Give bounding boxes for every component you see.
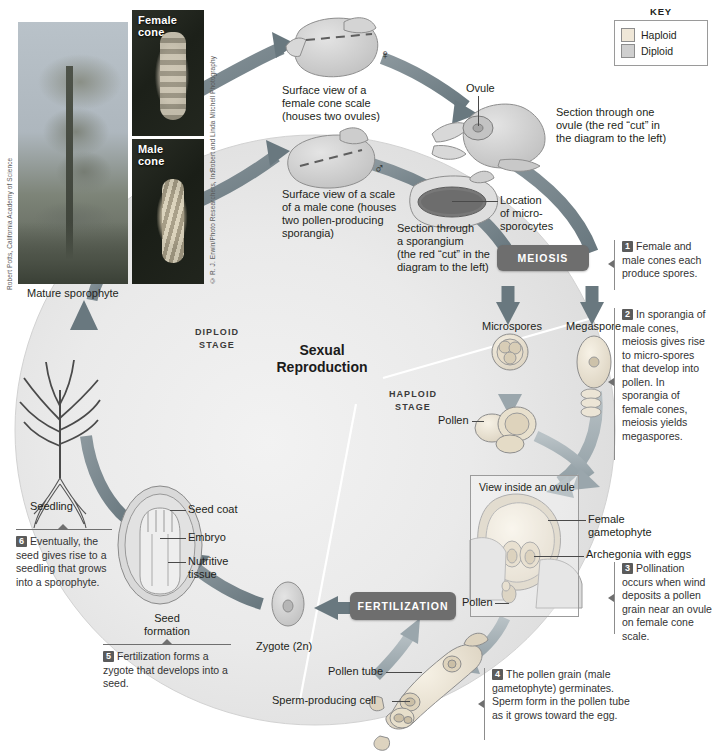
step-4-caption: 4The pollen grain (male gametophyte) ger… — [492, 668, 642, 722]
female-cone-scale-label: Surface view of a female cone scale (hou… — [282, 84, 414, 123]
seedling-label: Seedling — [30, 500, 73, 513]
step-2-rule — [614, 308, 615, 460]
pollen-inside-ovule-leader — [495, 603, 509, 604]
haploid-swatch — [621, 28, 635, 42]
male-cone-credit: © R. J. Erwin/Photo Researchers, Inc. — [209, 172, 217, 284]
mature-sporophyte-label: Mature sporophyte — [27, 287, 119, 300]
female-cone-credit: Robert and Linda Mitchell Photography — [209, 96, 217, 172]
fertilization-box[interactable]: FERTILIZATION — [350, 592, 456, 620]
ovule-leader — [478, 96, 479, 126]
male-cone-photo: Malecone — [132, 139, 204, 284]
step-2-text: In sporangia of male cones, meiosis give… — [622, 308, 705, 442]
view-inside-ovule-title: View inside an ovule — [479, 481, 575, 493]
mature-sporophyte-credit: Robert Potts, California Academy of Scie… — [6, 140, 14, 290]
female-gametophyte-label: Female gametophyte — [588, 513, 668, 539]
zygote-illustration — [272, 582, 304, 626]
step-2-caption: 2In sporangia of male cones, meiosis giv… — [622, 308, 710, 443]
figure-canvas: Robert Potts, California Academy of Scie… — [0, 0, 716, 753]
sperm-producing-cell-leader — [392, 701, 410, 702]
microsporocytes-leader — [452, 201, 498, 202]
section-ovule-label: Section through one ovule (the red “cut”… — [556, 106, 706, 145]
diploid-stage-label: DIPLOIDSTAGE — [172, 326, 262, 352]
nutritive-tissue-label: Nutritive tissue — [188, 555, 248, 581]
key-item-haploid: Haploid — [621, 28, 701, 42]
step-4-text: The pollen grain (male gametophyte) germ… — [492, 668, 630, 721]
step-6-number: 6 — [16, 536, 27, 547]
step-6-tick — [58, 524, 68, 529]
step-6-text: Eventually, the seed gives rise to a see… — [16, 535, 106, 588]
ovule-section-illustration — [432, 104, 545, 171]
key-item-diploid: Diploid — [621, 44, 701, 58]
pollen-tube-leader — [386, 672, 422, 673]
sperm-producing-cell-label: Sperm-producing cell — [272, 694, 376, 707]
step-4-number: 4 — [492, 669, 503, 680]
zygote-label: Zygote (2n) — [256, 640, 312, 653]
meiosis-box[interactable]: MEIOSIS — [497, 245, 589, 271]
embryo-leader — [160, 538, 186, 539]
seed-formation-label: Seed formation — [137, 612, 197, 638]
step-5-caption: 5Fertilization forms a zygote that devel… — [103, 650, 235, 691]
step-4-rule — [484, 668, 485, 740]
diploid-swatch — [621, 44, 635, 58]
archegonia-label: Archegonia with eggs — [586, 548, 691, 561]
sexual-reproduction-title: SexualReproduction — [262, 342, 382, 376]
haploid-label: Haploid — [641, 29, 677, 41]
step-3-number: 3 — [622, 563, 633, 574]
female-symbol: ♀ — [380, 48, 391, 61]
step-1-text: Female and male cones each produce spore… — [622, 240, 701, 279]
step-1-number: 1 — [622, 241, 633, 252]
female-cone-scale-illustration — [286, 18, 378, 77]
key-title: KEY — [614, 6, 708, 17]
step-3-tick — [608, 594, 614, 602]
embryo-label: Embryo — [188, 531, 226, 544]
pollen-inside-ovule-label: Pollen — [462, 596, 493, 609]
pollen-upper-label: Pollen — [438, 414, 469, 427]
nutritive-tissue-leader — [168, 562, 186, 563]
step-6-rule — [16, 529, 112, 530]
pollen-tube-label: Pollen tube — [328, 665, 383, 678]
ovule-label: Ovule — [466, 82, 495, 95]
step-3-rule — [614, 562, 615, 634]
microspores-label: Microspores — [482, 320, 542, 333]
step-6-caption: 6Eventually, the seed gives rise to a se… — [16, 535, 120, 589]
step-5-tick — [162, 639, 172, 644]
mature-sporophyte-photo — [18, 22, 128, 284]
step-4-tick — [478, 700, 484, 708]
step-5-rule — [103, 644, 231, 645]
male-cone-photo-caption: Malecone — [138, 143, 164, 167]
location-microsporocytes-label: Location of micro- sporocytes — [500, 194, 570, 233]
step-3-text: Pollination occurs when wind deposits a … — [622, 562, 712, 642]
seed-coat-label: Seed coat — [188, 503, 238, 516]
male-symbol: ♂ — [374, 162, 385, 175]
megaspore-label: Megaspore — [566, 320, 621, 333]
archegonia-leader — [534, 556, 584, 557]
step-5-text: Fertilization forms a zygote that develo… — [103, 650, 228, 689]
step-1-caption: 1Female and male cones each produce spor… — [622, 240, 712, 281]
step-1-tick — [608, 260, 614, 268]
female-cone-photo: Femalecone — [132, 10, 204, 136]
step-5-number: 5 — [103, 651, 114, 662]
seed-coat-leader — [170, 510, 186, 511]
step-3-caption: 3Pollination occurs when wind deposits a… — [622, 562, 712, 643]
pollen-upper-leader — [472, 421, 484, 422]
female-gametophyte-leader — [548, 520, 586, 521]
step-2-number: 2 — [622, 309, 633, 320]
microspores-illustration — [492, 334, 528, 370]
key-legend: KEY Haploid Diploid — [614, 6, 708, 66]
haploid-stage-label: HAPLOIDSTAGE — [368, 388, 458, 414]
diploid-label: Diploid — [641, 45, 673, 57]
step-2-tick — [608, 378, 614, 386]
step-1-rule — [614, 240, 615, 290]
